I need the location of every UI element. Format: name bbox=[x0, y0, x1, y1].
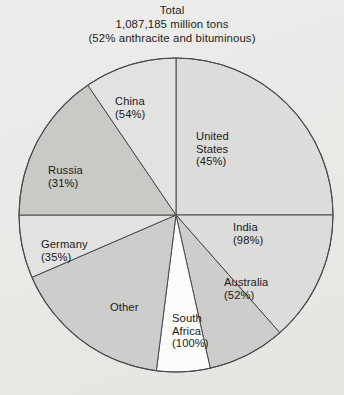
slice-label-other: Other bbox=[110, 301, 138, 314]
slice-label-pct: (45%) bbox=[196, 155, 229, 168]
slice-label-line: Other bbox=[110, 301, 138, 314]
slice-label-united-states: United States (45%) bbox=[196, 130, 229, 168]
slice-label-pct: (31%) bbox=[48, 177, 83, 190]
slice-label-china: China (54%) bbox=[115, 95, 145, 120]
slice-label-line: Australia bbox=[224, 276, 268, 289]
slice-label-pct: (100%) bbox=[172, 337, 209, 350]
slice-label-germany: Germany (35%) bbox=[41, 238, 88, 263]
slice-label-pct: (54%) bbox=[115, 108, 145, 121]
slice-label-pct: (52%) bbox=[224, 289, 268, 302]
slice-label-line: Africa bbox=[172, 325, 209, 338]
slice-label-south-africa: South Africa (100%) bbox=[172, 312, 209, 350]
slice-label-line: United bbox=[196, 130, 229, 143]
slice-label-line: Russia bbox=[48, 164, 83, 177]
slice-label-pct: (35%) bbox=[41, 251, 88, 264]
slice-label-line: South bbox=[172, 312, 209, 325]
slice-label-line: States bbox=[196, 143, 229, 156]
slice-label-line: Germany bbox=[41, 238, 88, 251]
slice-label-australia: Australia (52%) bbox=[224, 276, 268, 301]
slice-label-russia: Russia (31%) bbox=[48, 164, 83, 189]
slice-label-pct: (98%) bbox=[233, 234, 263, 247]
pie-chart-figure: Total 1,087,185 million tons (52% anthra… bbox=[0, 0, 344, 395]
slice-label-line: China bbox=[115, 95, 145, 108]
slice-label-line: India bbox=[233, 221, 263, 234]
slice-label-india: India (98%) bbox=[233, 221, 263, 246]
